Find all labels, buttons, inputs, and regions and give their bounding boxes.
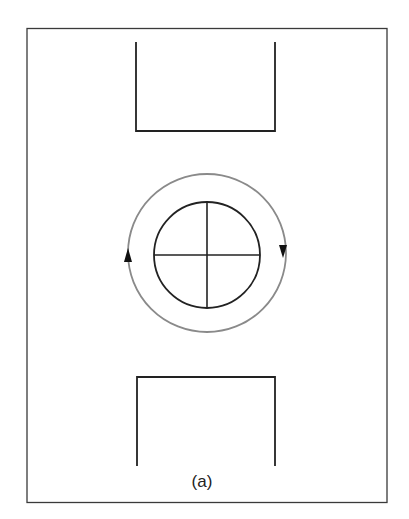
top-channel-bracket: [136, 42, 275, 131]
diagram-figure: (a): [0, 0, 409, 519]
figure-label: (a): [192, 472, 213, 491]
up-arrow-icon: [124, 248, 132, 262]
bottom-channel-bracket: [137, 377, 275, 466]
rotor: [154, 202, 260, 308]
